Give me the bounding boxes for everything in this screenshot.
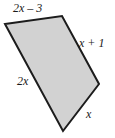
quadrilateral-svg	[0, 0, 115, 138]
side-label-bottom: x	[86, 108, 91, 120]
geometry-figure: 2x – 3 x + 1 2x x	[0, 0, 115, 138]
side-label-right: x + 1	[79, 37, 104, 49]
side-label-left: 2x	[17, 75, 28, 87]
side-label-top: 2x – 3	[13, 2, 42, 14]
